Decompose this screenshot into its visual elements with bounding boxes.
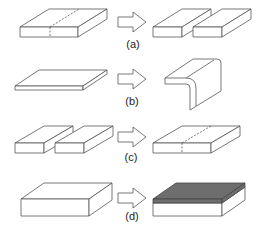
panel-b-input-plate bbox=[15, 70, 107, 90]
panel-label-b: (b) bbox=[117, 95, 147, 107]
panel-d-input-slab bbox=[21, 183, 112, 216]
panel-a-input-slab bbox=[20, 9, 107, 37]
arrow-c-icon bbox=[118, 127, 146, 147]
arrow-b-icon bbox=[118, 69, 146, 89]
arrow-d-icon bbox=[118, 188, 146, 208]
panel-label-d: (d) bbox=[117, 210, 147, 222]
arrow-a-icon bbox=[118, 12, 146, 32]
panel-c-output-slab bbox=[153, 126, 240, 153]
panel-a-output-slabs bbox=[153, 9, 251, 37]
process-diagram bbox=[0, 0, 262, 233]
panel-d-output-coated-slab bbox=[153, 183, 245, 216]
panel-b-output-angle bbox=[165, 59, 221, 110]
panel-label-a: (a) bbox=[118, 38, 148, 50]
panel-c-input-slabs bbox=[15, 126, 113, 153]
panel-label-c: (c) bbox=[116, 151, 146, 163]
